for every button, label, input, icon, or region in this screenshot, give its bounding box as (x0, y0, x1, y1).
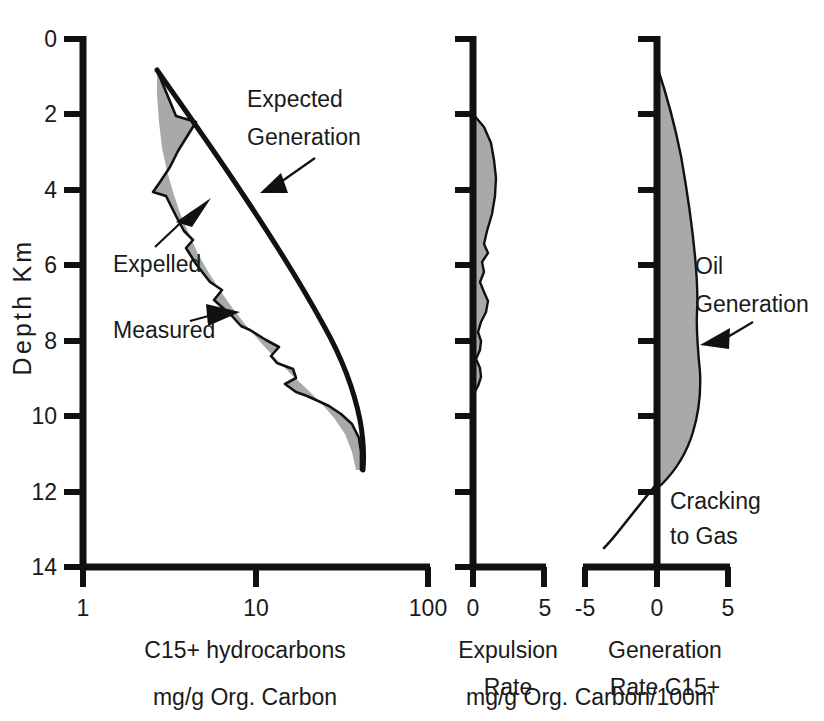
expected-generation-leader (278, 158, 315, 184)
depth-tick-label-8: 8 (44, 328, 57, 354)
chart-canvas: 0 2 4 6 8 10 12 14 Depth Km 1 10 100 C15… (0, 0, 824, 721)
panel2-caption-line1: Expulsion (458, 637, 558, 663)
oil-generation-label-line2: Generation (695, 291, 809, 317)
expected-generation-label-line2: Generation (247, 124, 361, 150)
expelled-label: Expelled (113, 251, 201, 277)
panel2-xtick-label-0: 0 (467, 595, 480, 621)
oil-generation-arrowhead (700, 328, 730, 349)
expected-generation-arrowhead (260, 173, 288, 193)
oil-generation-label-line1: Oil (695, 253, 723, 279)
panel2-xtick-label-5: 5 (539, 595, 552, 621)
depth-tick-label-4: 4 (44, 177, 57, 203)
oil-generation-leader (726, 322, 753, 338)
depth-tick-label-12: 12 (31, 479, 57, 505)
cracking-to-gas-label-line2: to Gas (670, 523, 738, 549)
panel1-caption-line1: C15+ hydrocarbons (144, 637, 345, 663)
panel3-xtick-label-5: 5 (722, 595, 735, 621)
panel1-caption-line2: mg/g Org. Carbon (153, 684, 337, 710)
measured-label: Measured (113, 317, 215, 343)
panel3-caption-line1: Generation (608, 637, 722, 663)
panel1-xtick-label-10: 10 (243, 595, 269, 621)
oil-generation-shaded-band (657, 66, 700, 488)
panel1-xtick-label-1: 1 (77, 595, 90, 621)
depth-tick-label-14: 14 (31, 554, 57, 580)
panel-generation-rate: -5 0 5 Generation Rate C15+ Oil Generati… (575, 36, 809, 700)
panel-c15-hydrocarbons: 0 2 4 6 8 10 12 14 Depth Km 1 10 100 C15… (8, 26, 447, 710)
expelled-arrowhead (176, 198, 211, 227)
depth-tick-label-2: 2 (44, 101, 57, 127)
panel1-xtick-label-100: 100 (409, 595, 447, 621)
depth-axis-title: Depth Km (8, 239, 36, 376)
figure-root: 0 2 4 6 8 10 12 14 Depth Km 1 10 100 C15… (0, 0, 824, 721)
depth-tick-label-10: 10 (31, 403, 57, 429)
panel3-xtick-label-0: 0 (651, 595, 664, 621)
shared-bottom-caption: mg/g Org. Carbon/100m (466, 684, 714, 710)
panel3-xtick-label-neg5: -5 (575, 595, 595, 621)
depth-tick-label-0: 0 (44, 26, 57, 52)
cracking-to-gas-label-line1: Cracking (670, 488, 761, 514)
expected-generation-label-line1: Expected (247, 86, 343, 112)
panel-expulsion-rate: 0 5 Expulsion Rate (455, 36, 558, 700)
depth-tick-label-6: 6 (44, 252, 57, 278)
